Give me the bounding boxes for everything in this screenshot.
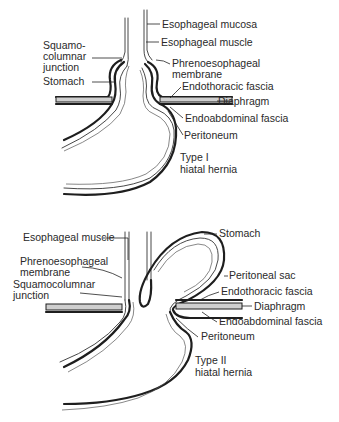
label-peritoneal-sac: Peritoneal sac — [229, 270, 296, 281]
label-esophageal-muscle: Esophageal muscle — [161, 37, 253, 48]
panel-title-type-2-line1: Type II — [195, 355, 227, 366]
label-diaphragm: Diaphragm — [218, 96, 269, 107]
label-squamocolumnar-junction-line3: junction — [43, 62, 79, 73]
label-endoabdominal-fascia-2: Endoabdominal fascia — [219, 316, 322, 327]
label-endothoracic-fascia-2: Endothoracic fascia — [221, 286, 313, 297]
label-endothoracic-fascia: Endothoracic fascia — [182, 81, 274, 92]
label-phrenoesophageal-membrane-line2: membrane — [172, 69, 222, 80]
label-peritoneum-2: Peritoneum — [201, 331, 255, 342]
label-diaphragm-2: Diaphragm — [254, 301, 305, 312]
label-stomach: Stomach — [43, 76, 84, 87]
label-esophageal-mucosa: Esophageal mucosa — [162, 19, 257, 30]
panel-title-type-1-line2: hiatal hernia — [180, 164, 237, 175]
panel-title-type-2-line2: hiatal hernia — [195, 367, 252, 378]
label-peritoneum: Peritoneum — [184, 130, 238, 141]
panel-title-type-1-line1: Type I — [180, 152, 209, 163]
label-stomach-2: Stomach — [219, 228, 260, 239]
label-squamocolumnar-junction-2-line2: junction — [13, 290, 49, 301]
label-esophageal-muscle-2: Esophageal muscle — [23, 232, 115, 243]
hiatal-hernia-figure: Esophageal mucosa Esophageal muscle Phre… — [0, 0, 339, 422]
label-endoabdominal-fascia: Endoabdominal fascia — [185, 113, 288, 124]
label-phrenoesophageal-membrane-2-line2: membrane — [20, 267, 70, 278]
